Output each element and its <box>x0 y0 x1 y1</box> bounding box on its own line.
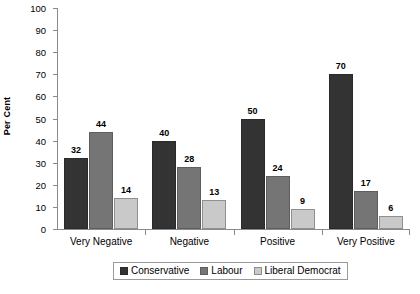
y-axis-tick-label: 0 <box>41 225 46 234</box>
y-axis-tick <box>53 96 57 97</box>
x-axis-tick <box>409 230 410 235</box>
x-axis-category-label: Positive <box>260 236 295 248</box>
legend-item-label: Labour <box>211 265 242 276</box>
bar-value-label: 9 <box>300 197 305 206</box>
y-axis-tick-label: 10 <box>35 202 46 211</box>
bar-value-label: 40 <box>159 129 169 138</box>
y-axis-tick-label: 40 <box>35 136 46 145</box>
y-axis-line <box>57 8 58 230</box>
y-axis-tick-labels: 0102030405060708090100 <box>14 8 50 230</box>
bar-conservative-very-positive <box>329 74 353 229</box>
legend-item-conservative[interactable]: Conservative <box>120 265 189 276</box>
y-axis-tick-label: 70 <box>35 70 46 79</box>
bar-chart: Per Cent 0102030405060708090100 32441440… <box>0 0 420 294</box>
x-axis-tick <box>145 230 146 235</box>
x-axis-tick <box>234 230 235 235</box>
y-axis-title-label: Per Cent <box>2 97 12 136</box>
y-axis-tick-label: 100 <box>30 4 46 13</box>
y-axis-tick <box>53 163 57 164</box>
y-axis-tick <box>53 8 57 9</box>
y-axis-title: Per Cent <box>0 0 14 232</box>
bar-value-label: 24 <box>273 164 283 173</box>
bar-liberal-democrat-very-positive <box>379 216 403 229</box>
legend-item-label: Conservative <box>131 265 189 276</box>
bar-value-label: 50 <box>248 107 258 116</box>
bar-value-label: 44 <box>96 120 106 129</box>
y-axis-tick <box>53 30 57 31</box>
bar-labour-negative <box>177 167 201 229</box>
y-axis-tick <box>53 185 57 186</box>
y-axis-tick <box>53 74 57 75</box>
legend-swatch-icon <box>254 267 262 275</box>
legend-item-liberal-democrat[interactable]: Liberal Democrat <box>254 265 341 276</box>
y-axis-tick-label: 30 <box>35 158 46 167</box>
bar-liberal-democrat-very-negative <box>114 198 138 229</box>
y-axis-tick <box>53 207 57 208</box>
x-axis-tick <box>322 230 323 235</box>
bar-value-label: 14 <box>121 186 131 195</box>
y-axis-tick-label: 60 <box>35 92 46 101</box>
y-axis-tick <box>53 141 57 142</box>
bar-conservative-very-negative <box>64 158 88 229</box>
y-axis-tick-label: 90 <box>35 26 46 35</box>
bar-conservative-negative <box>152 141 176 229</box>
bar-labour-very-positive <box>354 191 378 229</box>
y-axis-tick-label: 50 <box>35 114 46 123</box>
bar-value-label: 13 <box>209 188 219 197</box>
legend-item-label: Liberal Democrat <box>265 265 341 276</box>
legend-swatch-icon <box>200 267 208 275</box>
y-axis-tick <box>53 52 57 53</box>
bar-liberal-democrat-negative <box>202 200 226 229</box>
bar-value-label: 17 <box>361 179 371 188</box>
y-axis-tick <box>53 229 57 230</box>
legend-swatch-icon <box>120 267 128 275</box>
bar-value-label: 28 <box>184 155 194 164</box>
bar-conservative-positive <box>241 119 265 230</box>
x-axis-category-label: Very Negative <box>70 236 132 248</box>
x-axis-category-label: Very Positive <box>337 236 395 248</box>
chart-legend: ConservativeLabourLiberal Democrat <box>113 262 348 280</box>
bar-value-label: 6 <box>388 204 393 213</box>
plot-area: 3244144028135024970176 <box>57 8 410 230</box>
bar-labour-positive <box>266 176 290 229</box>
legend-item-labour[interactable]: Labour <box>200 265 242 276</box>
y-axis-tick <box>53 119 57 120</box>
x-axis-category-label: Negative <box>170 236 209 248</box>
y-axis-tick-label: 80 <box>35 48 46 57</box>
bar-value-label: 32 <box>71 146 81 155</box>
y-axis-tick-label: 20 <box>35 180 46 189</box>
x-axis-category-labels: Very NegativeNegativePositiveVery Positi… <box>57 236 410 252</box>
bar-labour-very-negative <box>89 132 113 229</box>
bar-liberal-democrat-positive <box>291 209 315 229</box>
bar-value-label: 70 <box>336 62 346 71</box>
